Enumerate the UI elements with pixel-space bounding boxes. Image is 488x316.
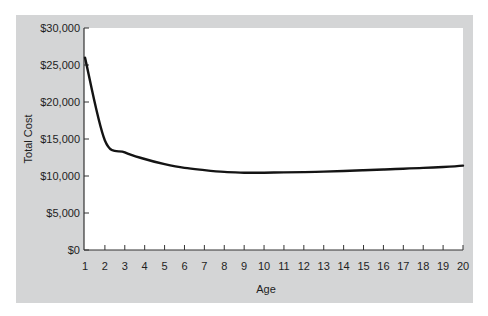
x-tick-label: 11	[278, 260, 289, 272]
x-tick-label: 4	[142, 260, 148, 272]
x-axis-title: Age	[256, 283, 276, 295]
y-axis-ticks: $0$5,000$10,000$15,000$20,000$25,000$30,…	[40, 22, 89, 256]
x-tick-label: 2	[102, 260, 108, 272]
y-tick-label: $25,000	[40, 59, 80, 71]
x-tick-label: 1	[82, 260, 88, 272]
y-tick-label: $5,000	[46, 207, 80, 219]
y-tick-label: $0	[68, 244, 80, 256]
x-tick-label: 16	[377, 260, 389, 272]
y-tick-label: $30,000	[40, 22, 80, 34]
plot-area	[84, 28, 463, 250]
y-tick-label: $15,000	[40, 133, 80, 145]
x-tick-label: 8	[221, 260, 227, 272]
x-tick-label: 13	[318, 260, 330, 272]
x-tick-label: 18	[417, 260, 429, 272]
x-tick-label: 6	[181, 260, 187, 272]
x-tick-label: 20	[457, 260, 469, 272]
x-tick-label: 3	[122, 260, 128, 272]
x-tick-label: 5	[162, 260, 168, 272]
x-tick-label: 19	[437, 260, 449, 272]
x-tick-label: 15	[357, 260, 369, 272]
x-tick-label: 9	[241, 260, 247, 272]
x-tick-label: 17	[397, 260, 409, 272]
y-tick-label: $20,000	[40, 96, 80, 108]
x-tick-label: 14	[338, 260, 350, 272]
y-tick-label: $10,000	[40, 170, 80, 182]
y-axis-title: Total Cost	[22, 115, 34, 164]
x-tick-label: 12	[298, 260, 310, 272]
x-tick-label: 7	[201, 260, 207, 272]
line-chart: $0$5,000$10,000$15,000$20,000$25,000$30,…	[0, 0, 488, 316]
x-tick-label: 10	[258, 260, 270, 272]
